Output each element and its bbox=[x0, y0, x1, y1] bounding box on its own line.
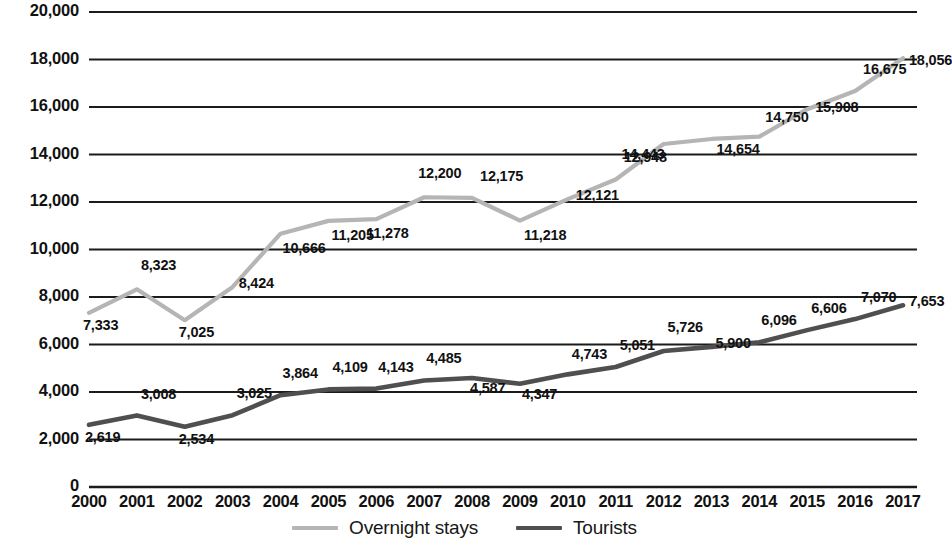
x-axis-tick-label: 2006 bbox=[351, 492, 401, 511]
data-point-label: 4,109 bbox=[332, 359, 367, 375]
x-axis-tick-label: 2012 bbox=[639, 492, 689, 511]
x-axis-tick-label: 2005 bbox=[303, 492, 353, 511]
data-point-label: 11,278 bbox=[366, 225, 408, 241]
data-point-label: 8,323 bbox=[141, 257, 176, 273]
x-axis-tick-label: 2008 bbox=[447, 492, 497, 511]
data-point-label: 2,619 bbox=[85, 429, 120, 445]
y-axis-tick-label: 12,000 bbox=[30, 191, 79, 210]
data-point-label: 4,143 bbox=[378, 359, 413, 375]
x-axis-tick-label: 2015 bbox=[782, 492, 832, 511]
y-axis-tick-label: 16,000 bbox=[30, 96, 79, 115]
data-point-label: 3,008 bbox=[141, 386, 176, 402]
series-line-overnight-stays bbox=[89, 58, 903, 320]
data-point-label: 14,750 bbox=[765, 109, 808, 125]
legend-item-tourists[interactable]: Tourists bbox=[516, 517, 637, 539]
x-axis-tick-label: 2001 bbox=[112, 492, 162, 511]
legend-swatch-icon bbox=[516, 526, 562, 530]
data-point-label: 5,051 bbox=[620, 337, 655, 353]
data-point-label: 14,443 bbox=[622, 146, 665, 162]
data-point-label: 12,175 bbox=[480, 168, 523, 184]
data-point-label: 12,200 bbox=[418, 165, 461, 181]
data-point-label: 7,653 bbox=[909, 293, 944, 309]
data-point-label: 5,900 bbox=[715, 335, 750, 351]
x-axis-tick-label: 2017 bbox=[878, 492, 928, 511]
data-point-label: 7,025 bbox=[179, 324, 214, 340]
data-point-label: 6,606 bbox=[811, 300, 846, 316]
x-axis-tick-label: 2009 bbox=[495, 492, 545, 511]
data-point-label: 2,534 bbox=[179, 431, 214, 447]
x-axis-tick-label: 2004 bbox=[256, 492, 306, 511]
data-point-label: 12,121 bbox=[576, 187, 619, 203]
y-axis-tick-label: 4,000 bbox=[39, 381, 79, 400]
x-axis-tick-label: 2010 bbox=[543, 492, 593, 511]
data-point-label: 3,025 bbox=[237, 385, 272, 401]
data-point-label: 4,347 bbox=[522, 386, 557, 402]
legend-label: Tourists bbox=[573, 517, 637, 539]
x-axis-tick-label: 2016 bbox=[830, 492, 880, 511]
data-point-label: 4,485 bbox=[426, 350, 461, 366]
x-axis-tick-label: 2011 bbox=[591, 492, 641, 511]
x-axis-tick-label: 2014 bbox=[734, 492, 784, 511]
y-axis-tick-label: 14,000 bbox=[30, 144, 79, 163]
data-point-label: 16,675 bbox=[863, 61, 906, 77]
y-axis-tick-label: 10,000 bbox=[30, 239, 79, 258]
data-point-label: 5,726 bbox=[668, 319, 703, 335]
chart-legend: Overnight staysTourists bbox=[0, 517, 929, 539]
y-axis-tick-label: 2,000 bbox=[39, 429, 79, 448]
gridlines bbox=[89, 12, 917, 487]
data-point-label: 8,424 bbox=[239, 275, 274, 291]
data-point-label: 11,218 bbox=[524, 227, 566, 243]
y-axis-tick-label: 18,000 bbox=[30, 49, 79, 68]
data-point-label: 7,333 bbox=[83, 317, 118, 333]
y-axis-tick-label: 20,000 bbox=[30, 1, 79, 20]
data-point-label: 6,096 bbox=[761, 312, 796, 328]
data-point-label: 3,864 bbox=[283, 365, 318, 381]
legend-swatch-icon bbox=[292, 526, 338, 530]
legend-item-overnight-stays[interactable]: Overnight stays bbox=[292, 517, 478, 539]
y-axis-tick-label: 6,000 bbox=[39, 334, 79, 353]
x-axis-tick-label: 2007 bbox=[399, 492, 449, 511]
data-point-label: 4,587 bbox=[470, 380, 505, 396]
x-axis-tick-label: 2002 bbox=[160, 492, 210, 511]
data-point-label: 7,070 bbox=[861, 289, 896, 305]
y-axis-tick-label: 8,000 bbox=[39, 286, 79, 305]
data-point-label: 4,743 bbox=[572, 346, 607, 362]
x-axis-tick-label: 2003 bbox=[208, 492, 258, 511]
data-point-label: 18,056 bbox=[909, 52, 952, 68]
x-axis-tick-label: 2013 bbox=[686, 492, 736, 511]
data-point-label: 10,666 bbox=[283, 240, 326, 256]
legend-label: Overnight stays bbox=[349, 517, 478, 539]
x-axis-tick-label: 2000 bbox=[64, 492, 114, 511]
data-point-label: 14,654 bbox=[716, 141, 759, 157]
data-point-label: 15,908 bbox=[815, 99, 858, 115]
